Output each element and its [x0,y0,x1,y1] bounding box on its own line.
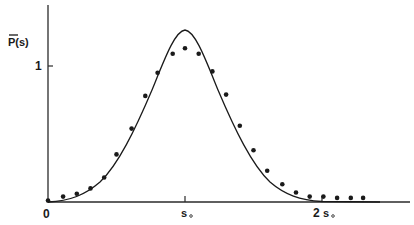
data-point [349,196,354,201]
data-point [265,168,270,173]
x-tick-label-0: 0 [43,207,50,221]
data-point [238,124,243,129]
y-tick-label-1: 1 [35,59,42,73]
data-point [155,71,160,76]
data-point [294,190,299,195]
data-point [170,52,175,57]
y-axis-label: P(s) [8,36,29,48]
x-tick-label-2s0-coef: 2 [313,206,320,220]
subscript-zero [332,215,335,218]
data-point [251,148,256,153]
data-point [321,194,326,199]
data-point [210,69,215,74]
data-point [75,192,80,197]
data-point [280,182,285,187]
data-point [183,46,188,51]
data-point [335,196,340,201]
data-point [361,196,366,201]
data-point [307,194,312,199]
theory-curve [48,30,380,202]
data-point [196,52,201,57]
data-point [102,175,107,180]
data-point [46,198,51,203]
data-points [46,46,366,203]
subscript-zero [190,215,193,218]
x-tick-label-2s0: s [323,207,329,219]
data-point [88,186,93,191]
chart-canvas: P(s) 1 0 s 2 s [0,0,414,225]
data-point [61,194,66,199]
data-point [114,152,119,157]
data-point [224,92,229,97]
axes [48,5,410,202]
x-tick-label-s0: s [181,207,187,219]
data-point [143,94,148,99]
data-point [129,126,134,131]
